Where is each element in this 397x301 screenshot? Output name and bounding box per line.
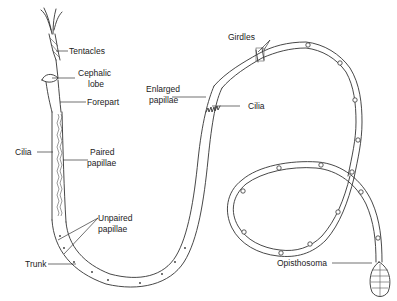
label-enlarged-papillae-line1: Enlarged <box>146 84 180 94</box>
label-cilia-left: Cilia <box>15 147 32 157</box>
opisthosoma-drawing <box>370 262 390 297</box>
label-forepart: Forepart <box>87 97 120 107</box>
label-paired-papillae-line2: papillae <box>87 158 117 168</box>
label-paired-papillae-line1: Paired <box>90 147 115 157</box>
label-enlarged-papillae-line2: papillae <box>149 95 179 105</box>
enlarged-papillae-drawing <box>206 106 220 112</box>
label-opisthosoma: Opisthosoma <box>277 258 327 268</box>
label-trunk: Trunk <box>25 259 47 269</box>
label-girdles: Girdles <box>228 32 255 42</box>
forepart-drawing <box>46 80 66 222</box>
lower-loop-drawing <box>227 162 382 262</box>
loop-nodes <box>241 163 380 255</box>
label-unpaired-papillae-line2: papillae <box>98 224 128 234</box>
label-tentacles: Tentacles <box>69 46 105 56</box>
worm-anatomy-diagram: Tentacles Cephalic lobe Forepart Cilia P… <box>0 0 397 301</box>
label-unpaired-papillae-line1: Unpaired <box>98 213 133 223</box>
label-cilia-right: Cilia <box>248 101 265 111</box>
label-cephalic-lobe-line1: Cephalic <box>78 68 112 78</box>
trunk-drawing <box>52 86 222 287</box>
cephalic-lobe-drawing <box>42 60 58 82</box>
tentacles-drawing <box>41 8 62 60</box>
label-cephalic-lobe-line2: lobe <box>88 79 104 89</box>
posterior-trunk-drawing <box>214 42 362 178</box>
